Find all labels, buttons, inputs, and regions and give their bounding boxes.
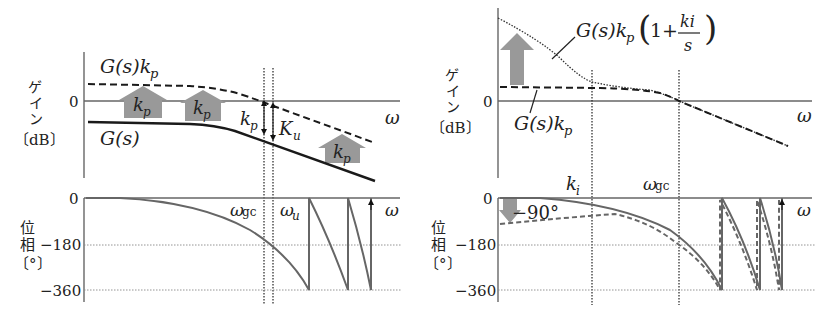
right-phase-omega-label: ω: [797, 200, 811, 220]
svg-text:gc: gc: [242, 205, 257, 219]
svg-text:〔dB〕: 〔dB〕: [430, 119, 481, 137]
svg-text:p: p: [250, 119, 258, 133]
left-phase-tick-0: 0: [69, 190, 79, 208]
right-gain-ylabel: ゲ: [445, 67, 459, 83]
right-gain-tick-0: 0: [483, 93, 493, 111]
left-phase-omega-label: ω: [385, 200, 399, 220]
svg-text:p: p: [343, 152, 351, 166]
left-gain-tick-0: 0: [69, 93, 79, 111]
minus90-label: −90°: [512, 202, 559, 223]
right-phase-ylabel: 位: [431, 219, 446, 237]
svg-text:〔dB〕: 〔dB〕: [14, 131, 65, 149]
right-phase-plot: k i ω gc −90° ω 0 −180 −360 位 相 〔°〕: [424, 173, 815, 302]
left-phase-tick-360: −360: [40, 282, 81, 300]
kp-shift-arrow-3: k p: [318, 134, 366, 166]
pi-label-leader: [552, 37, 575, 59]
svg-text:〔°〕: 〔°〕: [14, 255, 52, 273]
right-phase-tick-360: −360: [455, 282, 496, 300]
svg-text:p: p: [564, 123, 573, 138]
fraction-numerator: ki: [680, 12, 695, 31]
ku-annotation: K: [278, 118, 294, 139]
pi-gain-boost-arrow: [500, 33, 534, 85]
svg-text:1+: 1+: [650, 19, 678, 41]
right-gkp-curve-label: G(s)k: [514, 112, 565, 134]
svg-text:u: u: [292, 209, 300, 223]
svg-text:i: i: [576, 184, 580, 198]
svg-text:gc: gc: [655, 179, 670, 193]
svg-text:ン: ン: [446, 99, 460, 115]
left-phase-tick-180: −180: [40, 236, 81, 254]
kp-shift-arrow-2: k p: [180, 90, 226, 122]
svg-text:イ: イ: [446, 83, 460, 99]
kp-shift-arrow-1: k p: [119, 86, 167, 119]
svg-text:ン: ン: [29, 111, 43, 127]
right-phase-tick-180: −180: [455, 236, 496, 254]
left-phase-curve: [86, 198, 371, 290]
svg-text:p: p: [626, 30, 635, 45]
right-gain-plot: G(s)k p ( 1+ ki s ) G(s)k p ω 0 ゲ イ ン 〔d…: [430, 8, 812, 305]
pi-curve-label: G(s)k: [576, 19, 627, 41]
svg-text:p: p: [143, 105, 151, 119]
left-gain-omega-label: ω: [385, 107, 400, 128]
svg-text:イ: イ: [29, 95, 43, 111]
left-phase-plot: ω gc ω u ω 0 −180 −360 位 相 〔°〕: [14, 190, 402, 302]
right-gain-omega-label: ω: [797, 105, 812, 126]
svg-text:p: p: [203, 108, 211, 122]
left-gain-ylabel: ゲ: [28, 79, 42, 95]
svg-text:〔°〕: 〔°〕: [424, 255, 462, 273]
svg-text:u: u: [293, 129, 301, 143]
left-phase-ylabel: 位: [20, 219, 35, 237]
svg-text:相: 相: [20, 236, 35, 254]
left-gain-plot: k p k p k p G(s)k p G(s) k p K u ω 0 ゲ: [14, 52, 400, 305]
g-curve-label: G(s): [100, 127, 140, 149]
svg-text:p: p: [150, 66, 159, 81]
fraction-denominator: s: [684, 36, 692, 55]
bode-diagram: k p k p k p G(s)k p G(s) k p K u ω 0 ゲ: [0, 0, 825, 325]
right-phase-tick-0: 0: [483, 190, 493, 208]
right-paren: ): [704, 8, 717, 48]
gkp-curve-label: G(s)k: [100, 55, 151, 77]
svg-text:相: 相: [431, 236, 446, 254]
